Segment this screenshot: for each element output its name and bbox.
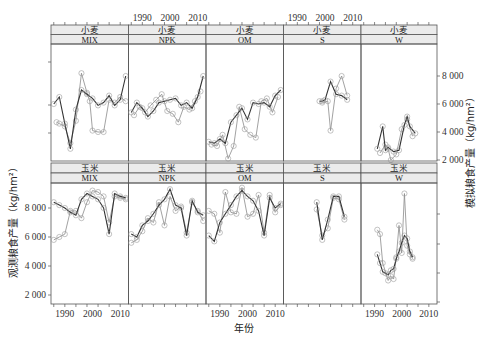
panel-maize-w: 玉米W (361, 163, 437, 304)
observed-line (54, 194, 126, 235)
strip-crop-label: 小麦 (313, 25, 331, 35)
strip-treatment-label: OM (238, 173, 252, 183)
panel-maize-mix: 玉米MIX (51, 163, 129, 304)
y-axis-title-right: 模拟粮食产量（kg/hm²） (464, 92, 476, 208)
x-tick-label: 2000 (392, 309, 411, 319)
strip-crop-label: 玉米 (390, 163, 408, 173)
x-tick-label: 1990 (365, 309, 384, 319)
observed-line (209, 90, 281, 143)
panel-wheat-npk: 小麦NPK (129, 25, 207, 161)
simulated-line (212, 97, 278, 159)
strip-treatment-label: W (395, 35, 403, 45)
x-tick-label: 1990 (55, 309, 74, 319)
x-tick-label: 2000 (316, 13, 335, 23)
x-axis-title: 年份 (234, 322, 254, 334)
panel-wheat-w: 小麦W (361, 25, 437, 163)
x-tick-label: 2000 (238, 309, 257, 319)
strip-treatment-label: W (395, 173, 403, 183)
strip-crop-label: 玉米 (81, 163, 99, 173)
strip-treatment-label: MIX (81, 173, 98, 183)
observed-line (317, 196, 345, 240)
x-tick-label: 1990 (288, 13, 307, 23)
y-axis-title-left: 观测粮食产量（kg/hm²） (7, 162, 19, 278)
x-tick-label: 2010 (111, 309, 130, 319)
strip-crop-label: 小麦 (81, 25, 99, 35)
y-tick-label-left: 2 000 (25, 290, 47, 300)
x-tick-label: 2000 (161, 13, 180, 23)
observed-point (206, 233, 211, 238)
panel-frame (284, 183, 362, 304)
x-tick-label: 2000 (83, 309, 102, 319)
x-tick-label: 2010 (266, 309, 285, 319)
strip-crop-label: 玉米 (158, 163, 176, 173)
strip-crop-label: 小麦 (158, 25, 176, 35)
panel-wheat-s: 小麦S (284, 25, 362, 161)
strip-crop-label: 玉米 (236, 163, 254, 173)
simulated-line (209, 188, 281, 233)
y-tick-label-right: 2 000 (442, 155, 464, 165)
strip-treatment-label: NPK (159, 173, 177, 183)
x-tick-label: 1990 (133, 13, 152, 23)
x-tick-label: 2010 (343, 13, 362, 23)
y-tick-label-right: 4 000 (442, 127, 464, 137)
simulated-line (377, 194, 412, 281)
panel-maize-s: 玉米S (284, 163, 362, 304)
observed-line (319, 82, 347, 102)
x-tick-label: 1990 (210, 309, 229, 319)
y-tick-label-left: 4 000 (25, 261, 47, 271)
observed-line (377, 117, 415, 152)
panels-group: 小麦MIX小麦NPK小麦OM小麦S小麦W玉米MIX玉米NPK玉米OM玉米S玉米W (51, 25, 437, 304)
panel-wheat-mix: 小麦MIX (51, 25, 129, 161)
strip-treatment-label: OM (238, 35, 252, 45)
strip-treatment-label: MIX (81, 35, 98, 45)
y-tick-label-left: 8 000 (25, 203, 47, 213)
observed-line (54, 76, 126, 149)
strip-crop-label: 玉米 (313, 163, 331, 173)
panel-maize-npk: 玉米NPK (129, 163, 207, 304)
x-tick-label: 2010 (188, 13, 207, 23)
strip-treatment-label: S (320, 173, 325, 183)
strip-treatment-label: NPK (159, 35, 177, 45)
x-tick-label: 2010 (419, 309, 438, 319)
y-tick-label-right: 6 000 (442, 99, 464, 109)
panel-wheat-om: 小麦OM (206, 25, 284, 161)
panel-frame (51, 183, 129, 304)
strip-treatment-label: S (320, 35, 325, 45)
simulated-line (54, 191, 126, 240)
yield-facet-chart: 小麦MIX小麦NPK小麦OM小麦S小麦W玉米MIX玉米NPK玉米OM玉米S玉米W… (0, 0, 488, 342)
panel-maize-om: 玉米OM (206, 163, 284, 304)
simulated-point (131, 113, 136, 118)
y-tick-label-right: 8 000 (442, 71, 464, 81)
strip-crop-label: 小麦 (236, 25, 254, 35)
strip-crop-label: 小麦 (390, 25, 408, 35)
y-tick-label-left: 6 000 (25, 232, 47, 242)
observed-point (51, 200, 56, 205)
